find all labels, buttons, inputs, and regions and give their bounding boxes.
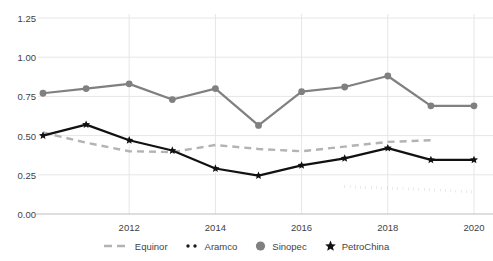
legend-label: Equinor: [135, 241, 168, 252]
x-axis-tick-label: 2020: [463, 222, 484, 233]
dashed-line-icon: [104, 240, 130, 252]
legend-item-aramco[interactable]: Aramco: [185, 240, 238, 252]
legend-label: PetroChina: [342, 241, 390, 252]
y-axis-tick-label: 0.50: [2, 130, 36, 141]
y-axis-tick-label: 0.00: [2, 209, 36, 220]
y-axis-tick-label: 1.25: [2, 13, 36, 24]
chart-container: 0.000.250.500.751.001.25 201220142016201…: [0, 0, 493, 261]
series-aramco: [345, 187, 474, 192]
plot-area: [0, 0, 493, 261]
x-axis-tick-label: 2014: [205, 222, 226, 233]
series-sinopec: [40, 73, 478, 129]
x-axis-tick-label: 2016: [291, 222, 312, 233]
y-axis-tick-labels: 0.000.250.500.751.001.25: [0, 0, 36, 261]
legend-item-petrochina[interactable]: PetroChina: [324, 240, 390, 252]
x-axis-tick-label: 2012: [119, 222, 140, 233]
legend-item-sinopec[interactable]: Sinopec: [254, 240, 306, 252]
y-axis-tick-label: 0.75: [2, 91, 36, 102]
x-axis-tick-label: 2018: [377, 222, 398, 233]
chart-legend: EquinorAramcoSinopecPetroChina: [0, 240, 493, 252]
legend-item-equinor[interactable]: Equinor: [104, 240, 168, 252]
legend-label: Aramco: [205, 241, 238, 252]
y-axis-tick-label: 0.25: [2, 169, 36, 180]
circle-marker-icon: [254, 240, 267, 252]
legend-label: Sinopec: [272, 241, 306, 252]
dotted-line-icon: [185, 240, 200, 252]
y-axis-tick-label: 1.00: [2, 52, 36, 63]
star-marker-icon: [324, 240, 337, 252]
gridlines: [38, 14, 493, 214]
